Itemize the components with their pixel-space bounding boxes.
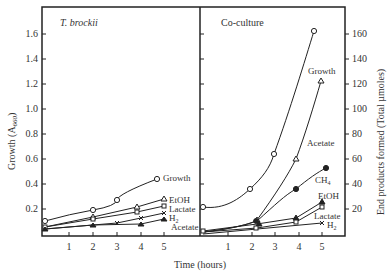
x-tick-label: 1 — [67, 241, 72, 252]
series-label-h2: H2 — [327, 220, 337, 231]
left-series — [45, 179, 164, 229]
y-tick-label: 0.4 — [26, 178, 39, 189]
x-tick-label: 4 — [139, 241, 144, 252]
x-tick-label: 1 — [226, 241, 231, 252]
series-label-acetate: Acetate — [307, 138, 334, 148]
x-axis-label: Time (hours) — [174, 259, 226, 271]
right-series — [203, 31, 326, 234]
x-tick-label: 3 — [273, 241, 278, 252]
series-label-growth: Growth — [163, 173, 191, 183]
y-tick-label: 1.2 — [26, 78, 39, 89]
x-tick-label: 5 — [162, 241, 167, 252]
y-tick-label: 0.6 — [26, 153, 39, 164]
y-tick-label: 40 — [352, 178, 362, 189]
y-tick-label: 60 — [352, 153, 362, 164]
y-tick-label: 120 — [352, 78, 367, 89]
y-tick-label: 0.8 — [26, 128, 39, 139]
x-tick-label: 5 — [320, 241, 325, 252]
series-label-acetate: Acetate — [171, 222, 198, 232]
y-tick-label: 20 — [352, 203, 362, 214]
y-tick-label: 100 — [352, 103, 367, 114]
y-tick-label: 1.6 — [26, 28, 39, 39]
y-axis-label-left: Growth (A660) — [6, 113, 19, 170]
y-axis-label-right: End products formed (Total µmoles) — [375, 69, 387, 215]
x-tick-label: 4 — [297, 241, 302, 252]
y-tick-label: 0.2 — [26, 203, 39, 214]
plot-frame — [42, 7, 345, 236]
x-tick-label: 2 — [250, 241, 255, 252]
right-markers — [200, 28, 328, 233]
right-panel-title: Co-culture — [221, 17, 264, 28]
y-tick-label: 1.4 — [26, 53, 39, 64]
series-h2-line — [45, 213, 164, 229]
x-tick-label: 3 — [115, 241, 120, 252]
x-tick-label: 2 — [91, 241, 96, 252]
series-label-etoh: EtOH — [318, 191, 339, 201]
series-acetate-line — [203, 81, 321, 232]
y-tick-label: 1.0 — [26, 103, 39, 114]
series-label-ch4: CH4 — [315, 175, 331, 186]
y-tick-label: 140 — [352, 53, 367, 64]
chart-figure: 1.6 1.4 1.2 1.0 0.8 0.6 0.4 0.2 Growth (… — [0, 0, 391, 277]
y-tick-label: 160 — [352, 28, 367, 39]
left-panel-title: T. brockii — [60, 17, 98, 28]
y-tick-label: 80 — [352, 128, 362, 139]
series-growth-line — [203, 31, 314, 207]
series-label-growth: Growth — [308, 66, 336, 76]
